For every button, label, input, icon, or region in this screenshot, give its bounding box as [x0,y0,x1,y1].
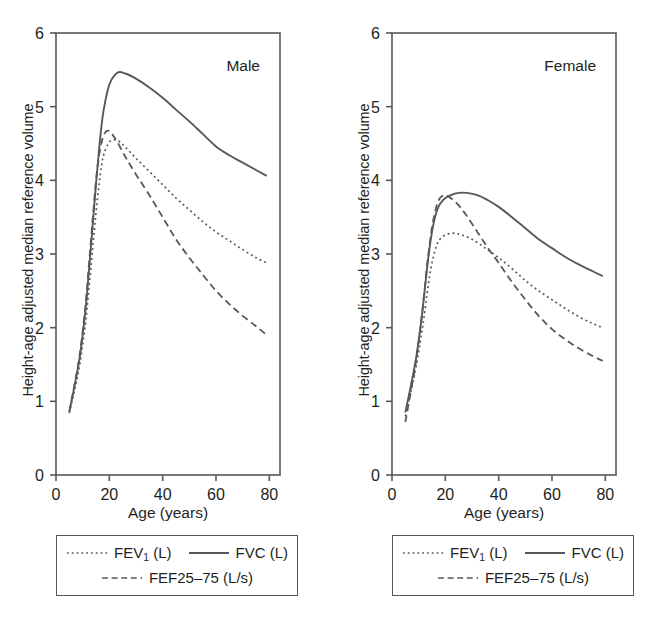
dashed-line-swatch-icon [437,572,479,584]
panel-male: Height-age adjusted median reference vol… [0,0,336,644]
y-tick-label: 2 [371,320,380,337]
legend-label-fev1: FEV1 (L) [450,545,508,560]
legend-entry-fef: FEF25–75 (L/s) [101,570,253,585]
y-tick-label: 3 [35,246,44,263]
y-tick-label: 5 [35,99,44,116]
y-tick-label: 6 [35,25,44,42]
y-tick-label: 4 [371,172,380,189]
panel-title: Male [226,57,260,74]
panel-female: Height-age adjusted median reference vol… [336,0,672,644]
series-line [405,193,602,413]
legend-row-2: FEF25–75 (L/s) [57,565,297,590]
x-tick-label: 60 [207,486,225,500]
series-line [69,72,266,412]
solid-line-swatch-icon [524,547,566,559]
series-line [405,195,602,422]
legend-label-fef: FEF25–75 (L/s) [485,570,589,585]
y-tick-label: 2 [35,320,44,337]
plot-area-female: 0123456020406080Female [336,0,672,500]
series-line [69,140,266,413]
plot-area-male: 0123456020406080Male [0,0,336,500]
panel-title: Female [544,57,596,74]
x-tick-label: 80 [260,486,278,500]
legend-entry-fvc: FVC (L) [188,545,289,560]
legend-row-1: FEV1 (L) FVC (L) [393,540,633,565]
x-tick-label: 80 [596,486,614,500]
legend-entry-fev1: FEV1 (L) [66,545,172,560]
x-tick-label: 20 [100,486,118,500]
y-tick-label: 0 [35,467,44,484]
legend-label-fef: FEF25–75 (L/s) [149,570,253,585]
legend-female: FEV1 (L) FVC (L) FEF25–75 (L/s) [392,535,634,596]
legend-row-2: FEF25–75 (L/s) [393,565,633,590]
legend-entry-fev1: FEV1 (L) [402,545,508,560]
y-tick-label: 4 [35,172,44,189]
dashed-line-swatch-icon [101,572,143,584]
legend-label-fvc: FVC (L) [572,545,625,560]
y-tick-label: 3 [371,246,380,263]
legend-male: FEV1 (L) FVC (L) FEF25–75 (L/s) [56,535,298,596]
dotted-line-swatch-icon [66,547,108,559]
y-tick-label: 1 [371,393,380,410]
legend-row-1: FEV1 (L) FVC (L) [57,540,297,565]
x-tick-label: 60 [543,486,561,500]
x-tick-label: 40 [490,486,508,500]
y-tick-label: 1 [35,393,44,410]
x-tick-label: 0 [388,486,397,500]
series-line [69,131,266,412]
dotted-line-swatch-icon [402,547,444,559]
solid-line-swatch-icon [188,547,230,559]
legend-entry-fef: FEF25–75 (L/s) [437,570,589,585]
x-tick-label: 20 [436,486,454,500]
legend-entry-fvc: FVC (L) [524,545,625,560]
legend-label-fvc: FVC (L) [236,545,289,560]
x-tick-label: 0 [52,486,61,500]
figure-root: Height-age adjusted median reference vol… [0,0,672,644]
legend-label-fev1: FEV1 (L) [114,545,172,560]
y-tick-label: 6 [371,25,380,42]
x-axis-label-male: Age (years) [0,504,336,522]
plot-frame [392,33,616,475]
y-tick-label: 0 [371,467,380,484]
x-tick-label: 40 [154,486,172,500]
y-tick-label: 5 [371,99,380,116]
x-axis-label-female: Age (years) [336,504,672,522]
